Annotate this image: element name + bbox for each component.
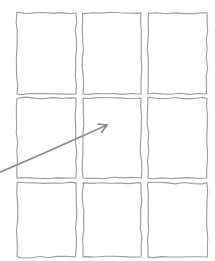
grid-cell[interactable] [16,97,76,178]
screenshot-canvas [0,0,215,261]
grid-cell[interactable] [16,12,77,94]
grid-cell[interactable] [17,182,77,258]
grid-cell[interactable] [82,98,142,179]
grid-cell[interactable] [147,97,207,179]
grid-cell[interactable] [147,13,207,95]
grid-cell[interactable] [82,12,142,94]
panel-grid [0,0,215,261]
grid-cell[interactable] [147,182,207,257]
grid-cell[interactable] [82,183,142,257]
